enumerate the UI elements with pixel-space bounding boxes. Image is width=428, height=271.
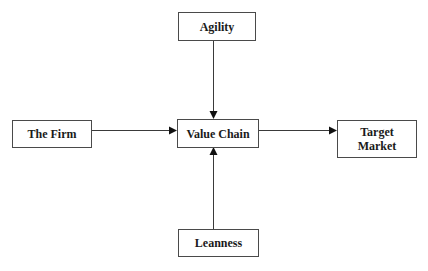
- value-chain-diagram: Agility The Firm Value Chain Target Mark…: [0, 0, 428, 271]
- arrow-firm-to-value-chain: [91, 127, 177, 135]
- arrowhead-icon: [210, 147, 218, 155]
- node-value-chain-label: Value Chain: [186, 127, 249, 141]
- node-target-market-label: Target Market: [358, 125, 397, 153]
- node-the-firm-label: The Firm: [28, 127, 77, 141]
- arrow-leanness-to-value-chain: [210, 147, 218, 229]
- arrowhead-icon: [169, 127, 177, 135]
- node-leanness-label: Leanness: [195, 236, 242, 250]
- arrowhead-icon: [210, 111, 218, 119]
- arrow-value-chain-to-target-market: [258, 127, 337, 135]
- node-the-firm: The Firm: [12, 120, 92, 148]
- node-agility: Agility: [178, 12, 256, 41]
- node-target-market: Target Market: [337, 120, 417, 158]
- node-agility-label: Agility: [200, 20, 235, 34]
- arrowhead-icon: [329, 127, 337, 135]
- node-value-chain: Value Chain: [177, 119, 259, 148]
- arrow-agility-to-value-chain: [210, 40, 218, 119]
- node-leanness: Leanness: [178, 229, 259, 257]
